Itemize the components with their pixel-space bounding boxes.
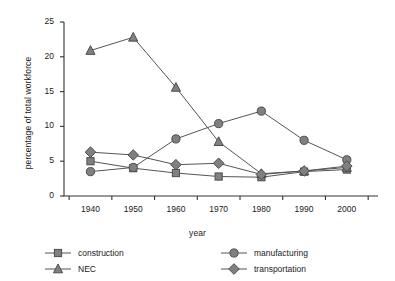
legend-label: manufacturing: [254, 248, 308, 258]
x-axis-title: year: [0, 228, 395, 238]
x-tick-label: 1980: [241, 204, 281, 214]
x-tick-label: 2000: [327, 204, 367, 214]
line-chart: percentage of total workforce year 05101…: [0, 0, 395, 281]
legend-label: construction: [78, 248, 124, 258]
y-tick-label: 25: [32, 16, 54, 26]
x-tick-label: 1970: [199, 204, 239, 214]
legend-marker-triangle-icon: [44, 262, 72, 276]
x-tick-label: 1940: [70, 204, 110, 214]
legend-entry-construction[interactable]: construction: [44, 246, 124, 260]
y-tick-label: 15: [32, 86, 54, 96]
legend-entry-NEC[interactable]: NEC: [44, 262, 96, 276]
x-tick-label: 1960: [156, 204, 196, 214]
legend-label: transportation: [254, 264, 306, 274]
plot-area: [0, 0, 395, 281]
y-tick-label: 20: [32, 51, 54, 61]
x-tick-label: 1990: [284, 204, 324, 214]
chart-legend: constructionNECmanufacturingtransportati…: [44, 246, 374, 278]
y-tick-label: 5: [32, 155, 54, 165]
legend-marker-diamond-icon: [220, 262, 248, 276]
legend-entry-transportation[interactable]: transportation: [220, 262, 306, 276]
legend-entry-manufacturing[interactable]: manufacturing: [220, 246, 308, 260]
y-tick-label: 10: [32, 120, 54, 130]
x-tick-label: 1950: [113, 204, 153, 214]
legend-marker-square-icon: [44, 246, 72, 260]
legend-label: NEC: [78, 264, 96, 274]
markers-NEC: [86, 32, 351, 177]
legend-marker-circle-icon: [220, 246, 248, 260]
y-axis-ticks: [60, 22, 64, 196]
x-axis-ticks: [69, 196, 368, 200]
y-tick-label: 0: [32, 190, 54, 200]
